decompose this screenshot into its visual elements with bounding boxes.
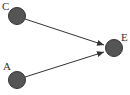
node-a-label: A (3, 60, 11, 72)
node-e-label: E (121, 31, 128, 43)
node-a[interactable] (9, 72, 26, 89)
edge-a-to-e (25, 52, 104, 77)
edge-c-to-e (25, 19, 104, 45)
node-c[interactable] (9, 8, 26, 25)
node-e[interactable] (106, 40, 123, 57)
node-c-label: C (2, 0, 9, 12)
directed-graph: C A E (0, 0, 130, 95)
